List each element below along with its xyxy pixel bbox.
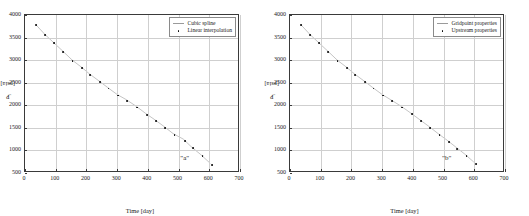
y-axis-tick-label: 1500 [265, 124, 286, 130]
y-axis-tick-label: 2500 [265, 79, 286, 85]
data-point-marker [429, 127, 431, 129]
chart-panel-right: Pi [psia] "b"Gridpoint propertiesUpstrea… [264, 0, 529, 216]
legend-line-icon [436, 23, 448, 24]
data-point-marker [466, 155, 468, 157]
plot-annotation: "b" [442, 154, 451, 162]
data-point-marker [391, 100, 393, 102]
y-axis-tick [290, 128, 293, 129]
gridline-horizontal [25, 105, 238, 106]
data-point-marker [309, 34, 311, 36]
x-axis-tick [474, 169, 475, 172]
legend-entry[interactable]: Gridpoint properties [436, 20, 497, 27]
data-point-marker [72, 60, 74, 62]
y-axis-tick-label: 3000 [0, 56, 21, 62]
x-axis-tick-label: 700 [235, 174, 244, 181]
x-axis-tick [117, 169, 118, 172]
data-point-marker [53, 42, 55, 44]
gridline-horizontal [290, 38, 503, 39]
data-point-marker [318, 42, 320, 44]
y-axis-tick-label: 2500 [0, 79, 21, 85]
legend-entry[interactable]: Cubic spline [172, 20, 232, 27]
x-axis-tick [148, 169, 149, 172]
x-axis-tick-label: 400 [142, 174, 151, 181]
legend-marker-icon [172, 30, 184, 32]
data-point-marker [108, 88, 110, 90]
legend-entry[interactable]: Linear interpolation [172, 27, 232, 34]
data-point-marker [136, 107, 138, 109]
x-axis-tick-label: 300 [377, 174, 386, 181]
y-axis-tick-label: 3500 [0, 34, 21, 40]
data-point-marker [155, 120, 157, 122]
y-axis-tick-label: 2000 [0, 101, 21, 107]
y-axis-tick [25, 38, 28, 39]
legend-label: Cubic spline [187, 20, 215, 27]
data-point-marker [337, 60, 339, 62]
legend-label: Gridpoint properties [451, 20, 497, 27]
chart-legend: Cubic splineLinear interpolation [169, 17, 236, 37]
x-axis-tick [209, 169, 210, 172]
x-axis-tick-label: 500 [173, 174, 182, 181]
x-axis-tick [240, 169, 241, 172]
y-axis-tick-label: 1500 [0, 124, 21, 130]
legend-entry[interactable]: Upstream properties [436, 27, 497, 34]
data-point-marker [364, 81, 366, 83]
x-axis-tick [505, 169, 506, 172]
y-axis-tick-label: 500 [0, 169, 21, 175]
y-axis-tick-label: 2000 [265, 101, 286, 107]
y-axis-tick [290, 38, 293, 39]
x-axis-label-left: Time [day] [0, 207, 264, 214]
data-point-marker [192, 147, 194, 149]
gridline-horizontal [25, 60, 238, 61]
data-point-marker [401, 107, 403, 109]
y-axis-tick [290, 60, 293, 61]
chart-legend: Gridpoint propertiesUpstream properties [433, 17, 501, 37]
cubic-spline-curve-left [25, 15, 238, 171]
data-point-marker [126, 100, 128, 102]
y-axis-tick [25, 105, 28, 106]
gridline-vertical [505, 15, 506, 171]
gridline-horizontal [290, 105, 503, 106]
x-axis-tick-label: 0 [23, 174, 26, 181]
data-point-marker [327, 51, 329, 53]
gridline-vertical [351, 15, 352, 171]
gridline-horizontal [290, 128, 503, 129]
data-point-marker [346, 67, 348, 69]
y-axis-tick [25, 15, 28, 16]
x-axis-tick [56, 169, 57, 172]
y-axis-tick-label: 1000 [265, 146, 286, 152]
y-axis-tick [290, 105, 293, 106]
x-axis-tick-label: 300 [112, 174, 121, 181]
x-axis-tick-label: 600 [469, 174, 478, 181]
data-point-marker [146, 114, 148, 116]
y-axis-tick-label: 3000 [265, 56, 286, 62]
y-axis-tick [25, 60, 28, 61]
x-axis-tick [321, 169, 322, 172]
figure-two-panel-chart: Pi [psia] "a"Cubic splineLinear interpol… [0, 0, 529, 216]
legend-marker-icon [436, 30, 448, 32]
data-point-marker [448, 141, 450, 143]
legend-label: Linear interpolation [187, 27, 232, 34]
gridline-horizontal [25, 83, 238, 84]
data-point-marker [81, 67, 83, 69]
gridline-vertical [240, 15, 241, 171]
x-axis-tick [413, 169, 414, 172]
plot-area-left: "a"Cubic splineLinear interpolation [24, 14, 239, 172]
gridline-vertical [382, 15, 383, 171]
data-point-marker [35, 24, 37, 26]
gridline-vertical [86, 15, 87, 171]
gridline-vertical [179, 15, 180, 171]
data-point-marker [475, 163, 477, 165]
y-axis-tick-label: 4000 [0, 11, 21, 17]
plot-annotation: "a" [180, 154, 189, 162]
y-axis-tick [25, 150, 28, 151]
x-axis-tick-label: 400 [407, 174, 416, 181]
y-axis-tick-label: 4000 [265, 11, 286, 17]
x-axis-tick-label: 500 [438, 174, 447, 181]
gridline-vertical [413, 15, 414, 171]
data-point-marker [117, 95, 119, 97]
y-axis-tick [290, 83, 293, 84]
data-point-marker [174, 134, 176, 136]
x-axis-tick [25, 169, 26, 172]
data-point-marker [439, 134, 441, 136]
x-axis-tick-label: 0 [288, 174, 291, 181]
